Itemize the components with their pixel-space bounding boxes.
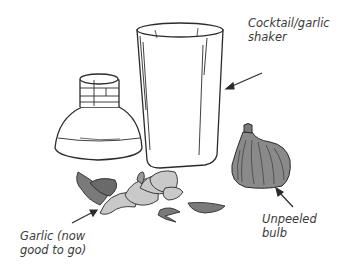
garlic-bulb-icon bbox=[232, 124, 291, 189]
shaker-cup-icon bbox=[137, 23, 223, 168]
shaker-arrowhead-icon bbox=[226, 83, 234, 89]
garlic-shaker-illustration: Cocktail/garlic shaker Garlic (now good … bbox=[0, 0, 350, 274]
garlic-arrow-icon bbox=[72, 212, 93, 223]
garlic-arrowhead-icon bbox=[90, 210, 97, 216]
garlic-label: Garlic (now good to go) bbox=[20, 229, 86, 257]
shaker-label: Cocktail/garlic shaker bbox=[248, 16, 330, 44]
shaker-lid-icon bbox=[55, 74, 142, 160]
bulb-label: Unpeeled bulb bbox=[262, 212, 317, 240]
shaker-arrow-icon bbox=[230, 73, 262, 87]
